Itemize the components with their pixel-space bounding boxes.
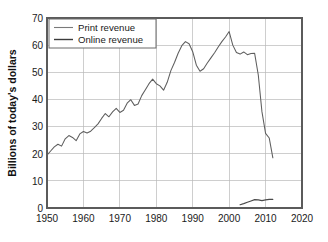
- x-tick-label: 2010: [254, 213, 277, 224]
- x-tick-label: 2000: [218, 213, 241, 224]
- x-tick-label: 1980: [145, 213, 168, 224]
- x-tick-label: 2020: [291, 213, 314, 224]
- y-tick-label: 20: [32, 149, 44, 160]
- legend-label-print: Print revenue: [78, 22, 135, 33]
- chart-legend: Print revenue Online revenue: [49, 19, 156, 48]
- y-axis-title: Billions of today's dollars: [6, 49, 18, 177]
- y-tick-label: 40: [32, 94, 44, 105]
- x-tick-label: 1950: [36, 213, 59, 224]
- y-axis-ticks: 70 60 50 40 30 20 10 0: [32, 13, 44, 214]
- x-tick-label: 1990: [182, 213, 205, 224]
- x-tick-label: 1970: [109, 213, 132, 224]
- y-tick-label: 30: [32, 121, 44, 132]
- y-tick-label: 70: [32, 13, 44, 24]
- revenue-line-chart: 70 60 50 40 30 20 10 0 1950 1960 1970 19…: [0, 0, 328, 242]
- x-axis-ticks: 1950 1960 1970 1980 1990 2000 2010 2020: [36, 213, 314, 224]
- y-tick-label: 60: [32, 40, 44, 51]
- x-tick-label: 1960: [72, 213, 95, 224]
- y-tick-label: 10: [32, 176, 44, 187]
- chart-container: 70 60 50 40 30 20 10 0 1950 1960 1970 19…: [0, 0, 328, 242]
- y-tick-label: 50: [32, 67, 44, 78]
- legend-label-online: Online revenue: [78, 34, 143, 45]
